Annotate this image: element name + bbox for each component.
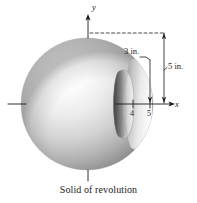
dimension-label-hole-depth: 3 in. [124, 47, 139, 56]
solid-of-revolution-figure: y x 4 5 3 in. 5 in. Solid of revolution [0, 0, 197, 203]
x-axis-label: x [175, 100, 179, 109]
figure-caption: Solid of revolution [0, 184, 197, 195]
dim-3in-leader [140, 57, 150, 60]
tick-label-5: 5 [147, 110, 151, 118]
dim-5in-leader [164, 68, 167, 71]
tick-label-4: 4 [130, 110, 134, 118]
y-axis-label: y [92, 3, 96, 12]
dimension-label-sphere-radius: 5 in. [168, 62, 183, 71]
figure-graphic [0, 0, 197, 203]
